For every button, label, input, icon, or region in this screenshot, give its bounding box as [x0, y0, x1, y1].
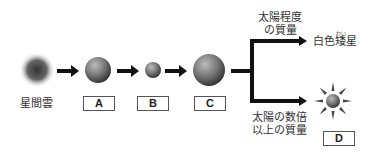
- branch-arrows: [231, 39, 300, 103]
- nebula-label: 星間雲: [20, 97, 53, 110]
- sphere-b-icon: [145, 62, 161, 78]
- arrow-icon: [57, 65, 79, 77]
- lower-condition-line2: 以上の質量: [252, 124, 307, 137]
- arrow-head-icon: [299, 36, 307, 46]
- upper-condition-line1: 太陽程度: [258, 11, 302, 24]
- lower-condition-line1: 太陽の数倍: [252, 111, 307, 124]
- shining-star-icon: [314, 82, 352, 120]
- stage-box-c: C: [194, 96, 226, 111]
- white-dwarf-label: 白色矮星: [313, 35, 357, 48]
- arrow-head-icon: [299, 96, 307, 106]
- stage-box-a: A: [83, 96, 115, 111]
- arrow-icon: [117, 65, 139, 77]
- upper-condition-line2: の質量: [264, 24, 297, 37]
- nebula-icon: [19, 52, 55, 88]
- stage-box-d: D: [323, 131, 355, 146]
- white-dwarf-ruby: わい: [336, 29, 346, 36]
- sphere-c-icon: [193, 54, 225, 86]
- arrow-icon: [165, 65, 187, 77]
- sphere-a-icon: [85, 57, 111, 83]
- stellar-evolution-diagram: [0, 0, 373, 154]
- stage-box-b: B: [137, 96, 169, 111]
